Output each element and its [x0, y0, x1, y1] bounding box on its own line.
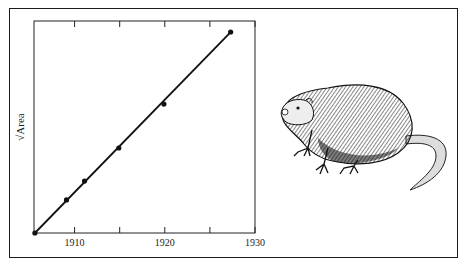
nose	[282, 109, 288, 115]
data-point	[116, 145, 121, 150]
eye	[296, 106, 299, 109]
data-point	[161, 102, 166, 107]
data-point	[64, 197, 69, 202]
sqrt-area-chart: 191019201930 √Area	[0, 0, 270, 267]
x-axis-ticks	[75, 21, 255, 233]
fit-line	[35, 32, 231, 233]
x-tick-label: 1910	[65, 237, 85, 248]
data-point	[32, 230, 37, 235]
data-point	[82, 178, 87, 183]
x-tick-label: 1930	[245, 237, 265, 248]
data-series	[32, 29, 233, 235]
x-tick-label: 1920	[155, 237, 175, 248]
muskrat-illustration	[278, 78, 453, 196]
tail	[406, 135, 446, 190]
y-axis-label: √Area	[14, 113, 26, 141]
data-point	[228, 29, 233, 34]
x-axis-labels: 191019201930	[65, 237, 265, 248]
